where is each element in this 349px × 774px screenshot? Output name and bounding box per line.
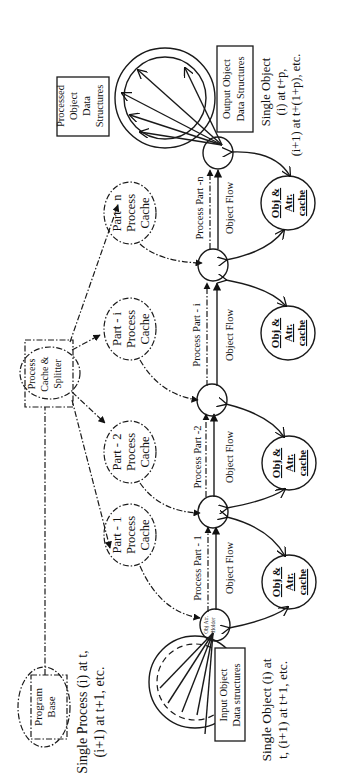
part-cache-2-label-3: Cache xyxy=(138,436,152,468)
cache-4-label-1: Obj & xyxy=(269,188,281,218)
processed-label-4: Structures xyxy=(94,85,105,128)
cache-3-label-3: cache xyxy=(295,320,307,346)
cache-4-label-3: cache xyxy=(295,190,307,216)
part2-to-node2-arrow xyxy=(140,483,200,513)
parti-to-nodei-arrow xyxy=(140,360,198,400)
cache4-output-link xyxy=(231,152,290,176)
part-cache-n: Part - n Process Cache xyxy=(104,182,156,244)
program-base-label-1: Program xyxy=(32,688,44,726)
single-object-input-note-2: t, (i+1) at t+1, etc. xyxy=(275,661,290,759)
splitter-to-part1-arrow xyxy=(72,400,110,548)
output-data-structures: Output Object Data Structures xyxy=(217,46,253,132)
part-cache-2-label: Part - 2 xyxy=(110,434,124,471)
process-cache-splitter: Process Cache & Splitter xyxy=(20,340,80,407)
splitter-to-part2-arrow xyxy=(72,392,105,423)
obj-attr-cache-1: Obj & Atr. cache xyxy=(262,555,316,609)
cache-3-label-1: Obj & xyxy=(269,318,281,348)
cache1-node2-link xyxy=(227,517,285,556)
output-structures-label-2: Data Structures xyxy=(235,56,246,121)
process-node-i xyxy=(197,384,227,416)
splitter-label-3: Splitter xyxy=(52,359,63,389)
cache-1-label-2: Atr. xyxy=(283,573,295,591)
obj-attr-cache-3: Obj & Atr. cache xyxy=(261,306,315,360)
single-object-input-note-1: Single Object (i) at xyxy=(259,658,274,761)
part-cache-n-label-3: Cache xyxy=(138,197,152,229)
cache-4-label-2: Atr. xyxy=(282,194,294,212)
process-part-i-label: Process Part - i xyxy=(191,303,202,366)
holder-label-2: Holder xyxy=(210,617,216,632)
splitter-label-1: Process xyxy=(26,359,37,390)
cache-2-label-1: Obj & xyxy=(270,448,282,478)
part-cache-1-label: Part - 1 xyxy=(110,517,124,554)
single-object-output-note-1: Single Object xyxy=(259,57,273,126)
input-holder-node: Obj Atr. Holder xyxy=(200,609,230,641)
object-flow-label-n: Object Flow xyxy=(224,181,235,234)
single-object-output-note-2: (i) at t+p, xyxy=(274,69,288,116)
cache3-noden-link xyxy=(226,280,286,306)
cache-2-label-3: cache xyxy=(296,450,308,476)
part-cache-1-label-3: Cache xyxy=(138,519,152,551)
object-flow-label-1: Object Flow xyxy=(224,541,235,594)
part-cache-1-label-2: Process xyxy=(124,516,138,554)
holder-label-1: Obj Atr. xyxy=(203,616,209,634)
cache-2-label-2: Atr. xyxy=(283,454,295,472)
part-cache-2: Part - 2 Process Cache xyxy=(104,421,156,483)
input-structures-label-2: Data structures xyxy=(231,663,242,726)
processed-label-3: Data xyxy=(81,96,92,116)
output-structures-label-1: Output Object xyxy=(221,59,232,119)
single-object-output-note-3: (i+1) at t+(1+p), etc. xyxy=(289,54,303,157)
splitter-label-2: Cache & xyxy=(39,356,50,391)
process-part-n-label: Process Part -n xyxy=(194,176,205,240)
splitter-to-parti-arrow xyxy=(72,335,100,350)
process-node-2 xyxy=(198,496,228,528)
part-cache-i-label-3: Cache xyxy=(138,313,152,345)
cache2-node2-link xyxy=(227,489,285,508)
part1-to-holder-arrow xyxy=(140,566,200,618)
single-process-note-1: Single Process (i) at t, xyxy=(75,650,91,773)
cache-1-label-1: Obj & xyxy=(270,567,282,597)
part-cache-1: Part - 1 Process Cache xyxy=(104,504,156,566)
obj-attr-cache-2: Obj & Atr. cache xyxy=(262,436,316,490)
process-node-n xyxy=(198,249,228,281)
process-part-2-label: Process Part -2 xyxy=(192,426,203,489)
program-base-label-2: Base xyxy=(45,696,57,718)
processed-data-structures: Processed Object Data Structures xyxy=(55,48,222,148)
obj-attr-cache-4: Obj & Atr. cache xyxy=(261,176,315,230)
process-part-1-label: Process Part - 1 xyxy=(192,535,203,601)
object-flow-label-i: Object Flow xyxy=(224,308,235,361)
partn-to-noden-arrow xyxy=(140,244,202,263)
part-cache-i: Part - i Process Cache xyxy=(104,298,156,360)
object-flow-label-2: Object Flow xyxy=(224,430,235,483)
processed-label-2: Object xyxy=(68,92,79,120)
cache1-holder-link xyxy=(229,607,288,628)
input-structures-label-1: Input Object xyxy=(218,669,229,722)
part-cache-i-label-2: Process xyxy=(124,310,138,348)
program-base: Program Base xyxy=(18,667,70,747)
processed-label-1: Processed xyxy=(55,84,66,127)
part-cache-n-label-2: Process xyxy=(124,194,138,232)
part-cache-n-label: Part - n xyxy=(110,194,124,232)
cache-1-label-3: cache xyxy=(296,569,308,595)
input-data-structures: Input Object Data structures xyxy=(149,633,245,741)
cache-3-label-2: Atr. xyxy=(282,324,294,342)
part-cache-i-label: Part - i xyxy=(110,311,124,346)
pipeline-diagram: Program Base Single Process (i) at t, (i… xyxy=(0,0,349,774)
part-cache-2-label-2: Process xyxy=(124,433,138,471)
single-process-note-2: (i+1) at t+1, etc. xyxy=(92,667,108,758)
